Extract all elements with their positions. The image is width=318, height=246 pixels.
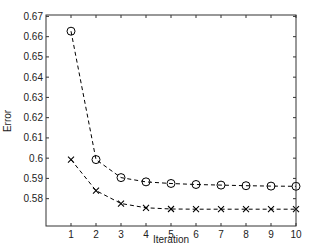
y-tick-label: 0.63 <box>24 92 44 103</box>
y-tick-label: 0.58 <box>24 193 44 204</box>
circle-series <box>67 27 300 190</box>
cross-marker-icon <box>93 188 99 194</box>
series-layer <box>67 27 300 212</box>
plot-frame <box>46 15 296 226</box>
x-tick-label: 10 <box>290 229 302 240</box>
cross-marker-icon <box>68 157 74 163</box>
y-tick-label: 0.61 <box>24 132 44 143</box>
x-tick-label: 7 <box>218 229 224 240</box>
y-tick-label: 0.62 <box>24 112 44 123</box>
x-tick-label: 2 <box>93 229 99 240</box>
y-tick-label: 0.64 <box>24 72 44 83</box>
x-tick-label: 4 <box>143 229 149 240</box>
axes: 123456789100.580.590.60.610.620.630.640.… <box>24 11 302 240</box>
x-tick-label: 1 <box>68 229 74 240</box>
x-axis-label: Iteration <box>153 234 189 245</box>
y-tick-label: 0.66 <box>24 31 44 42</box>
y-tick-label: 0.67 <box>24 11 44 22</box>
y-tick-label: 0.59 <box>24 173 44 184</box>
circle-marker-icon <box>67 27 75 35</box>
circle-marker-icon <box>92 156 100 164</box>
series-line <box>71 31 296 186</box>
x-tick-label: 3 <box>118 229 124 240</box>
x-tick-label: 8 <box>243 229 249 240</box>
y-tick-label: 0.65 <box>24 51 44 62</box>
line-chart: 123456789100.580.590.60.610.620.630.640.… <box>0 0 318 246</box>
y-tick-label: 0.6 <box>29 153 43 164</box>
x-tick-label: 9 <box>268 229 274 240</box>
x-tick-label: 6 <box>193 229 199 240</box>
y-axis-label: Error <box>2 109 13 132</box>
